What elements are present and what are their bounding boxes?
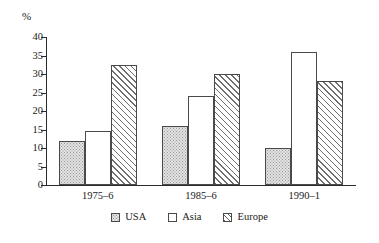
y-tick-label: 15 (21, 123, 43, 136)
y-tick-label: 10 (21, 141, 43, 154)
plot-area: 0510152025303540 1975–61985–61990–1 (46, 37, 356, 186)
bar-europe-2 (317, 81, 343, 185)
legend-label: Asia (182, 211, 201, 223)
y-axis-unit-label: % (22, 10, 31, 22)
y-tick-label: 35 (21, 49, 43, 62)
legend-swatch-icon (168, 213, 177, 222)
legend-entry-europe: Europe (223, 211, 267, 223)
bar-usa-0 (59, 141, 85, 185)
bar-europe-0 (111, 65, 137, 185)
y-tick-label: 30 (21, 67, 43, 80)
legend-swatch-icon (223, 213, 232, 222)
legend-entry-usa: USA (111, 211, 146, 223)
y-tick-label: 5 (21, 160, 43, 173)
bar-asia-0 (85, 131, 111, 185)
legend-label: USA (125, 211, 146, 223)
y-tick-label: 20 (21, 104, 43, 117)
x-axis-line (46, 185, 356, 186)
bar-asia-1 (188, 96, 214, 185)
legend-entry-asia: Asia (168, 211, 201, 223)
bar-europe-1 (214, 74, 240, 185)
y-tick-label: 40 (21, 30, 43, 43)
x-category-label: 1985–6 (149, 189, 252, 202)
y-tick-label: 0 (21, 178, 43, 191)
bar-usa-2 (265, 148, 291, 185)
y-axis-line (46, 37, 47, 186)
legend-swatch-icon (111, 213, 120, 222)
chart-legend: USAAsiaEurope (0, 211, 379, 223)
bar-chart-figure: % 0510152025303540 1975–61985–61990–1 US… (0, 0, 379, 243)
bar-asia-2 (291, 52, 317, 185)
x-category-label: 1975–6 (46, 189, 149, 202)
x-category-label: 1990–1 (253, 189, 356, 202)
bar-usa-1 (162, 126, 188, 185)
y-tick-label: 25 (21, 86, 43, 99)
legend-label: Europe (237, 211, 267, 223)
